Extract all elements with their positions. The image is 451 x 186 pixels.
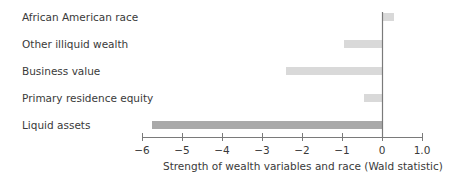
x-tick-label: −1 bbox=[334, 144, 349, 156]
category-label-business-value: Business value bbox=[22, 65, 100, 77]
category-label-african-american-race: African American race bbox=[22, 11, 138, 23]
x-tick-label: −3 bbox=[254, 144, 269, 156]
x-tick-label: −6 bbox=[134, 144, 149, 156]
bar bbox=[344, 40, 382, 48]
x-tick-label: −4 bbox=[214, 144, 229, 156]
bar bbox=[286, 67, 382, 75]
x-axis-title: Strength of wealth variables and race (W… bbox=[163, 160, 443, 173]
category-label-liquid-assets: Liquid assets bbox=[22, 119, 90, 131]
category-label-other-illiquid-wealth: Other illiquid wealth bbox=[22, 38, 128, 50]
x-tick-label: 1.0 bbox=[414, 144, 431, 156]
x-tick-label: −5 bbox=[174, 144, 189, 156]
x-tick-label: 0 bbox=[379, 144, 386, 156]
horizontal-bar-chart: African American race Other illiquid wea… bbox=[0, 0, 451, 186]
category-label-primary-residence-equity: Primary residence equity bbox=[22, 92, 153, 104]
bar bbox=[364, 94, 382, 102]
x-tick-label: −2 bbox=[294, 144, 309, 156]
bar bbox=[152, 121, 382, 129]
bar bbox=[382, 13, 394, 21]
